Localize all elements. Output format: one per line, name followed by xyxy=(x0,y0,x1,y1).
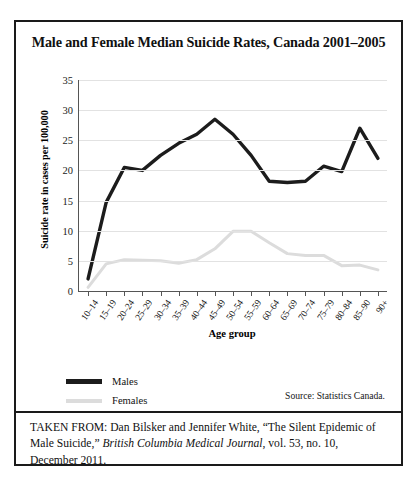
series-line-females xyxy=(88,231,378,287)
legend-swatch-females xyxy=(66,399,102,403)
y-tick-label: 25 xyxy=(63,135,74,146)
x-tick-label: 85–90 xyxy=(351,298,372,322)
x-tick xyxy=(251,291,252,296)
plot-container: Suicide rate in cases per 100,000 051015… xyxy=(16,62,401,352)
chart-legend: MalesFemales xyxy=(66,372,266,410)
x-tick-label: 90+ xyxy=(374,298,390,315)
x-tick xyxy=(287,291,288,296)
x-tick xyxy=(106,291,107,296)
y-tick-label: 30 xyxy=(63,105,74,116)
x-axis-title: Age group xyxy=(78,328,386,339)
legend-item-males: Males xyxy=(66,372,266,391)
x-tick xyxy=(179,291,180,296)
x-tick xyxy=(197,291,198,296)
x-tick xyxy=(360,291,361,296)
figure-frame: Male and Female Median Suicide Rates, Ca… xyxy=(14,20,403,466)
y-gridline xyxy=(79,80,387,81)
x-tick-label: 55–59 xyxy=(242,298,263,322)
x-tick-label: 60–64 xyxy=(260,298,281,322)
y-tick-label: 35 xyxy=(63,75,74,86)
x-tick xyxy=(161,291,162,296)
figure-page: Male and Female Median Suicide Rates, Ca… xyxy=(0,0,417,479)
x-tick-label: 80–84 xyxy=(333,298,354,322)
title-rule xyxy=(16,59,401,60)
legend-label: Males xyxy=(112,376,138,387)
y-axis-title: Suicide rate in cases per 100,000 xyxy=(39,80,50,280)
y-gridline xyxy=(79,201,387,202)
x-tick-label: 30–34 xyxy=(152,298,173,322)
legend-item-females: Females xyxy=(66,391,266,410)
x-tick-label: 45–49 xyxy=(206,298,227,322)
x-tick xyxy=(324,291,325,296)
x-tick-label: 70–74 xyxy=(297,298,318,322)
x-tick xyxy=(233,291,234,296)
x-tick-label: 35–39 xyxy=(170,298,191,322)
x-tick-label: 10–14 xyxy=(79,298,100,322)
y-gridline xyxy=(79,261,387,262)
x-tick xyxy=(88,291,89,296)
x-tick-label: 75–79 xyxy=(315,298,336,322)
y-gridline xyxy=(79,231,387,232)
x-tick-label: 20–24 xyxy=(115,298,136,322)
caption-divider xyxy=(16,411,401,413)
y-gridline xyxy=(79,110,387,111)
x-tick xyxy=(269,291,270,296)
x-tick-label: 25–29 xyxy=(134,298,155,322)
x-tick-label: 50–54 xyxy=(224,298,245,322)
x-tick xyxy=(124,291,125,296)
x-tick-label: 40–44 xyxy=(188,298,209,322)
x-tick-label: 15–19 xyxy=(97,298,118,322)
x-tick xyxy=(378,291,379,296)
caption-journal: British Columbia Medical Journal xyxy=(102,437,262,450)
y-tick-label: 15 xyxy=(63,195,74,206)
x-tick xyxy=(142,291,143,296)
y-tick-label: 0 xyxy=(68,286,73,297)
x-tick-label: 65–69 xyxy=(278,298,299,322)
y-tick-label: 5 xyxy=(68,255,73,266)
legend-label: Females xyxy=(112,395,147,406)
plot-area: 0510152025303510–1415–1920–2425–2930–343… xyxy=(78,80,387,292)
legend-swatch-males xyxy=(66,379,102,384)
series-line-males xyxy=(88,119,378,279)
y-gridline xyxy=(79,170,387,171)
source-note: Source: Statistics Canada. xyxy=(285,390,385,401)
chart-title: Male and Female Median Suicide Rates, Ca… xyxy=(16,34,401,51)
y-gridline xyxy=(79,140,387,141)
x-tick xyxy=(305,291,306,296)
y-tick-label: 10 xyxy=(63,225,74,236)
y-tick-label: 20 xyxy=(63,165,74,176)
x-tick xyxy=(215,291,216,296)
x-tick xyxy=(342,291,343,296)
chart-lines xyxy=(79,80,387,291)
figure-caption: TAKEN FROM: Dan Bilsker and Jennifer Whi… xyxy=(30,420,388,469)
